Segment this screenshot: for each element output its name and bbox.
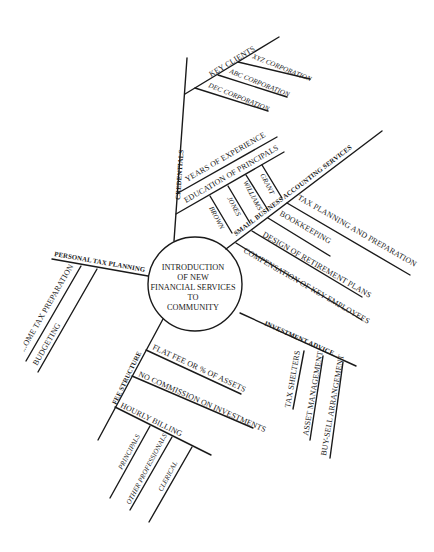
hourly-principals: PRINCIPALS	[116, 433, 142, 472]
center-line-2: OF NEW	[177, 273, 209, 282]
branch-fee-structure: FEE STRUCTURE FLAT FEE OR % OF ASSETS NO…	[98, 319, 267, 522]
branch-personal-tax-planning: PERSONAL TAX PLANNING ...OME TAX PREPARA…	[18, 250, 148, 372]
branch-credentials: CREDENTIALS KEY CLIENTS XYZ CORPORATION …	[174, 37, 313, 241]
branch-investment-advice: INVESTMENT ADVICE TAX SHELTERS ASSET MAN…	[240, 313, 356, 458]
hourly-billing-label: HOURLY BILLING	[119, 401, 184, 439]
center-line-5: COMMUNITY	[167, 303, 219, 312]
center-line-4: TO	[188, 293, 199, 302]
center-line-1: INTRODUCTION	[162, 263, 225, 272]
center-node: INTRODUCTION OF NEW FINANCIAL SERVICES T…	[148, 237, 242, 331]
mind-map: INTRODUCTION OF NEW FINANCIAL SERVICES T…	[0, 0, 434, 552]
center-line-3: FINANCIAL SERVICES	[151, 283, 236, 292]
